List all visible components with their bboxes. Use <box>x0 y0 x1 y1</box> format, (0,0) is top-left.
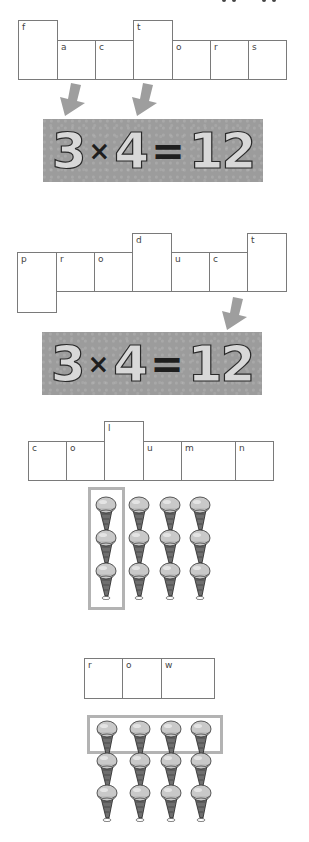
cutoff-heading-text <box>0 0 309 4</box>
factor-a: 3 <box>51 339 84 389</box>
ice-cream-cone-icon <box>188 782 214 822</box>
times-sign: × <box>88 351 110 377</box>
times-sign: × <box>89 138 111 164</box>
letter-box-f: f <box>18 20 58 80</box>
letter-box-n: n <box>235 441 274 481</box>
letter-box-o: o <box>172 40 211 80</box>
ice-cream-cone-icon <box>157 560 183 600</box>
equation-band: 3 × 4 = 12 <box>42 332 262 395</box>
letter-box-r: r <box>56 252 95 292</box>
letter-box-d: d <box>132 233 172 292</box>
letter-box-t: t <box>247 233 287 292</box>
letter-box-a: a <box>57 40 96 80</box>
letter-box-l: l <box>104 421 144 481</box>
ice-cream-cone-icon <box>187 560 213 600</box>
down-left-arrow-icon <box>129 83 159 117</box>
letter-box-u: u <box>171 252 210 292</box>
ice-cream-cone-icon <box>127 782 153 822</box>
letter-box-s: s <box>248 40 287 80</box>
letter-box-p: p <box>17 252 57 313</box>
letter-box-m: m <box>181 441 236 481</box>
letter-box-w: w <box>161 658 215 699</box>
factor-a: 3 <box>52 126 85 176</box>
letter-box-u: u <box>143 441 182 481</box>
ice-cream-cone-icon <box>158 782 184 822</box>
letter-box-t: t <box>133 20 173 80</box>
letter-box-c: c <box>95 40 134 80</box>
down-left-arrow-icon <box>57 83 87 117</box>
factor-b: 4 <box>114 126 147 176</box>
ice-cream-cone-icon <box>94 782 120 822</box>
letter-box-o: o <box>94 252 133 292</box>
equation-band: 3 × 4 = 12 <box>43 119 263 182</box>
letter-box-r: r <box>84 658 123 699</box>
letter-box-c: c <box>28 441 67 481</box>
ice-cream-cone-icon <box>93 560 119 600</box>
product-value: 12 <box>189 126 255 176</box>
letter-box-o: o <box>122 658 162 699</box>
letter-box-o: o <box>66 441 105 481</box>
equals-sign: = <box>151 131 185 171</box>
ice-cream-cone-icon <box>126 560 152 600</box>
factor-b: 4 <box>113 339 146 389</box>
letter-box-c: c <box>209 252 248 292</box>
down-left-arrow-icon <box>219 297 249 331</box>
letter-box-r: r <box>210 40 249 80</box>
equals-sign: = <box>150 344 184 384</box>
product-value: 12 <box>188 339 254 389</box>
